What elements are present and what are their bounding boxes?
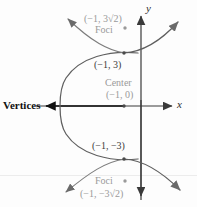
center-coordinate-label: (−1, 0) <box>106 90 133 100</box>
point-focus-lower <box>123 179 126 182</box>
focus-lower-name-label: Foci <box>95 176 113 186</box>
y-axis-label: y <box>146 3 151 14</box>
point-center <box>122 104 125 107</box>
focus-upper-coordinate-label: (−1, 3√2) <box>84 14 122 24</box>
point-focus-upper <box>123 26 126 29</box>
center-name-label: Center <box>105 78 132 88</box>
focus-lower-coordinate-label: (−1, −3√2) <box>80 189 123 199</box>
vertex-upper-coordinate-label: (−1, 3) <box>94 60 121 70</box>
point-vertex-upper <box>122 51 125 54</box>
x-axis-label: x <box>177 99 182 110</box>
hyperbola-upper-right-arm <box>124 22 178 53</box>
focus-upper-name-label: Foci <box>95 25 113 35</box>
vertices-label: Vertices <box>3 100 40 111</box>
point-vertex-lower <box>122 157 125 160</box>
hyperbola-figure: (−1, 3√2) Foci (−1, 3) Center (−1, 0) Ve… <box>0 0 197 207</box>
vertex-lower-coordinate-label: (−1, −3) <box>92 141 125 151</box>
hyperbola-lower-right-arm <box>124 159 180 190</box>
